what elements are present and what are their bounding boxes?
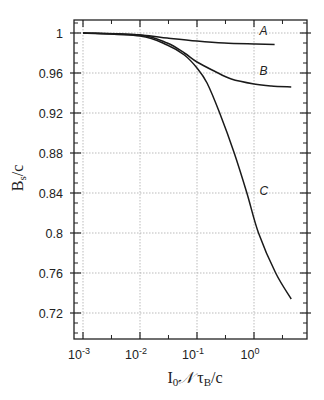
x-axis-label: I0𝒩 τB/c — [167, 369, 222, 388]
y-tick-label: 0.76 — [39, 267, 63, 281]
y-tick-labels: 10.960.920.880.840.80.760.72 — [39, 27, 63, 321]
y-tick-label: 0.88 — [39, 147, 63, 161]
curve-label-B: B — [260, 64, 268, 78]
y-tick-label: 1 — [56, 27, 63, 41]
curve-B — [83, 33, 291, 87]
x-tick-label: 10-2 — [125, 346, 147, 362]
y-axis-label: Bs/c — [9, 165, 28, 192]
x-tick-label: 10-1 — [182, 346, 204, 362]
x-tick-label: 10-3 — [68, 346, 90, 362]
grid-lines — [74, 20, 307, 339]
y-tick-label: 0.8 — [46, 227, 63, 241]
x-tick-labels: 10-310-210-1100 — [68, 346, 259, 362]
x-tick-label: 100 — [241, 346, 260, 362]
curve-label-A: A — [259, 24, 268, 38]
axis-ticks — [70, 20, 311, 339]
curve-label-C: C — [260, 184, 269, 198]
y-tick-label: 0.72 — [39, 307, 63, 321]
plot-frame — [74, 20, 307, 339]
y-tick-label: 0.84 — [39, 187, 63, 201]
y-tick-label: 0.92 — [39, 107, 63, 121]
chart: ABC 10-310-210-1100 10.960.920.880.840.8… — [0, 0, 324, 400]
curve-labels: ABC — [259, 24, 269, 198]
y-tick-label: 0.96 — [39, 67, 63, 81]
